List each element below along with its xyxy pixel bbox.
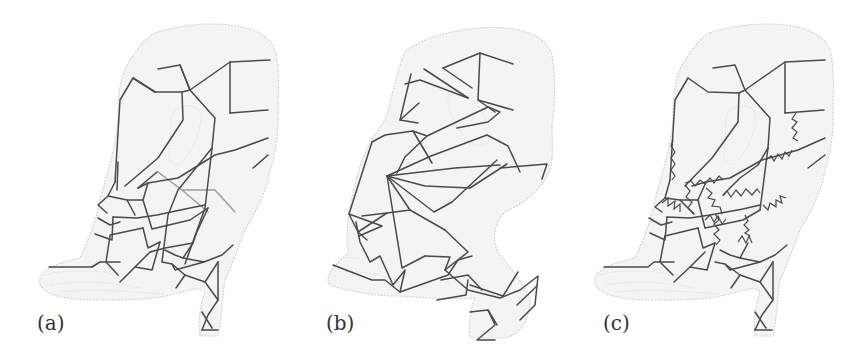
panel-a-map xyxy=(40,24,279,336)
netherlands-land-outline xyxy=(40,24,279,336)
panel-label-b: (b) xyxy=(326,313,354,333)
panel-b-map xyxy=(328,27,555,340)
panel-c-map xyxy=(595,24,834,336)
rail-edge xyxy=(117,162,118,190)
panel-label-c: (c) xyxy=(603,313,630,333)
netherlands-land-outline xyxy=(328,27,555,338)
figure-canvas xyxy=(0,0,862,353)
panel-label-a: (a) xyxy=(37,313,65,333)
